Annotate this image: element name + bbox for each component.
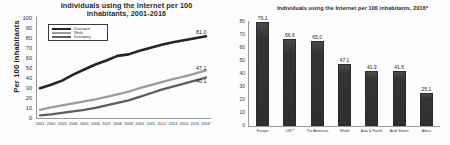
line-end-label-world: 47.1 bbox=[196, 65, 207, 71]
bar-value-the-americas: 65,0 bbox=[307, 34, 327, 40]
bar-xtick-world: World bbox=[331, 129, 359, 133]
legend-swatch-developed bbox=[52, 28, 71, 30]
two-chart-figure: Individuals using the Internet per 100 i… bbox=[0, 0, 450, 145]
bar-value-africa: 25,1 bbox=[416, 86, 436, 92]
line-ytick-40: 40 bbox=[18, 75, 32, 81]
bar-chart-plot bbox=[249, 21, 440, 126]
bar-value-asia-pacific: 41,9 bbox=[362, 64, 382, 70]
bar-xtick-asia-pacific: Asia & Pacific bbox=[358, 129, 386, 133]
bar-ytick-0: 0 bbox=[233, 123, 245, 128]
line-xtick-2016: 2016* bbox=[197, 121, 215, 126]
bar-ytick-50: 50 bbox=[233, 58, 245, 63]
bar-ytick-40: 40 bbox=[233, 71, 245, 76]
bar-europe bbox=[256, 22, 269, 126]
bar-chart-panel: Individuals using the Internet per 100 i… bbox=[225, 0, 450, 145]
line-end-label-developing: 40.1 bbox=[196, 78, 207, 84]
bar-chart-title: Individuals using the Internet per 100 i… bbox=[277, 5, 449, 11]
line-ytick-60: 60 bbox=[18, 55, 32, 61]
bar-ytick-10: 10 bbox=[233, 110, 245, 115]
bar-value-europe: 79,1 bbox=[253, 15, 273, 21]
line-ytick-0: 0 bbox=[18, 115, 32, 121]
line-ytick-50: 50 bbox=[18, 65, 32, 71]
bar-value-arab-states: 41,6 bbox=[389, 64, 409, 70]
line-ytick-10: 10 bbox=[18, 105, 32, 111]
bar-xtick-arab-states: Arab States bbox=[385, 129, 413, 133]
bar-ytick-20: 20 bbox=[233, 97, 245, 102]
line-ytick-30: 30 bbox=[18, 85, 32, 91]
bar-ytick-70: 70 bbox=[233, 32, 245, 37]
bar-arab-states bbox=[393, 71, 406, 126]
bar-asia-pacific bbox=[365, 71, 378, 126]
line-end-label-developed: 81.0 bbox=[196, 29, 207, 35]
bar-africa bbox=[420, 93, 433, 126]
bar-ytick-80: 80 bbox=[233, 19, 245, 24]
bar-xtick-cis: CIS** bbox=[276, 129, 304, 133]
bar-value-world: 47,1 bbox=[335, 57, 355, 63]
bar-xtick-africa: Africa bbox=[412, 129, 440, 133]
bar-world bbox=[338, 64, 351, 126]
legend-item-developing: Developing bbox=[52, 35, 104, 39]
bar-ytick-60: 60 bbox=[233, 45, 245, 50]
legend-label-developing: Developing bbox=[74, 35, 91, 39]
bar-chart-x-axis bbox=[248, 126, 440, 127]
legend-swatch-developing bbox=[52, 36, 71, 38]
bar-xtick-the-americas: The Americas bbox=[303, 129, 331, 133]
bar-cis bbox=[283, 39, 296, 126]
line-ytick-80: 80 bbox=[18, 35, 32, 41]
line-ytick-90: 90 bbox=[18, 25, 32, 31]
bar-the-americas bbox=[311, 41, 324, 126]
line-chart-panel: Individuals using the Internet per 100 i… bbox=[0, 0, 225, 145]
bar-xtick-europe: Europe bbox=[249, 129, 277, 133]
line-ytick-100: 100 bbox=[18, 15, 32, 21]
line-ytick-20: 20 bbox=[18, 95, 32, 101]
line-ytick-70: 70 bbox=[18, 45, 32, 51]
line-chart-legend: Developed World Developing bbox=[48, 24, 108, 41]
bar-value-cis: 66,6 bbox=[280, 32, 300, 38]
bar-ytick-30: 30 bbox=[233, 84, 245, 89]
legend-swatch-world bbox=[52, 32, 71, 34]
